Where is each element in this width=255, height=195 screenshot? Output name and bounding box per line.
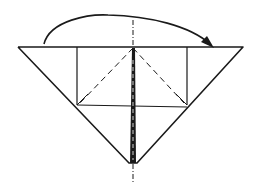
valley-fold-right — [133, 48, 184, 103]
left-corner-mark — [77, 94, 88, 105]
origami-diagram — [0, 0, 255, 195]
fold-arrow — [44, 15, 210, 44]
valley-fold-left — [80, 48, 133, 103]
